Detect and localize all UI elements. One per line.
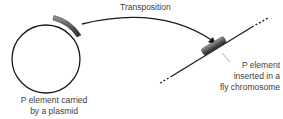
plasmid-label: P element carried by a plasmid xyxy=(4,95,104,117)
chromosome-dashed-left xyxy=(160,76,172,83)
plasmid-circle xyxy=(12,25,80,93)
chromosome-dashed-right xyxy=(252,18,268,27)
inserted-label-line1: P element xyxy=(200,60,280,71)
inserted-label-line2: inserted in a xyxy=(200,71,280,82)
plasmid-label-line2: by a plasmid xyxy=(4,106,104,117)
transposition-text: Transposition xyxy=(120,2,171,12)
inserted-label: P element inserted in a fly chromosome xyxy=(200,60,280,93)
transposition-arrow xyxy=(82,17,213,41)
inserted-label-line3: fly chromosome xyxy=(200,82,280,93)
plasmid-label-line1: P element carried xyxy=(4,95,104,106)
transposition-label: Transposition xyxy=(120,2,171,13)
